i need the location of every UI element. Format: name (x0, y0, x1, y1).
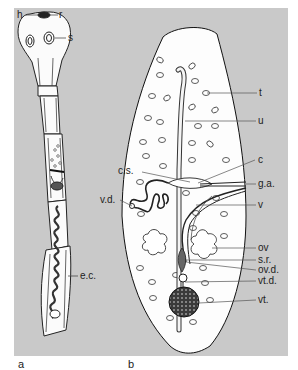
proglottid-b (122, 28, 246, 354)
oviduct-junction (179, 274, 187, 282)
diagram-drawing (0, 0, 298, 370)
label-h-hooks: h (17, 10, 23, 20)
caption-panel-a: a (18, 358, 24, 370)
sucker-right (44, 32, 54, 44)
label-s-sucker: s (68, 33, 73, 43)
rostellum (38, 12, 50, 18)
scolex (18, 12, 71, 86)
label-vd-vas-deferens: v.d. (100, 195, 115, 205)
strobila-a (18, 12, 71, 336)
label-v-vagina: v (258, 200, 263, 210)
sucker-left (26, 35, 34, 47)
label-vtd-vitelline-duct: vt.d. (258, 276, 277, 286)
label-ec-excretory-canal: e.c. (80, 271, 96, 281)
label-t-testes: t (259, 88, 262, 98)
label-cs-cirrus-sac: c.s. (118, 166, 134, 176)
label-ovd-oviduct: ov.d. (258, 265, 279, 275)
label-ga-genital-atrium: g.a. (258, 179, 275, 189)
label-r-rostellum: r (59, 10, 62, 20)
label-u-uterus: u (258, 116, 264, 126)
caption-panel-b: b (128, 358, 134, 370)
label-vt-vitellarium: vt. (258, 295, 269, 305)
label-c-cirrus: c (258, 155, 263, 165)
label-ov-ovary: ov (258, 243, 269, 253)
vitellarium (169, 287, 199, 317)
